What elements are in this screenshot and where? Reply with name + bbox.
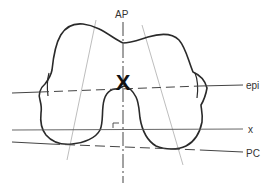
x-line <box>12 129 243 130</box>
epi-line-left <box>12 92 40 93</box>
ap-label: AP <box>115 9 129 20</box>
right-angle-mark <box>113 123 119 128</box>
femur-axes-diagram: AP epi x PC X <box>0 0 275 193</box>
right-epicondyle-notch <box>195 73 198 98</box>
pc-line-right <box>200 150 243 152</box>
right-condyle-axis-line <box>142 25 183 165</box>
center-x-marker: X <box>116 70 131 95</box>
x-label: x <box>248 124 253 135</box>
pc-line-left <box>12 142 50 144</box>
left-epicondyle-notch <box>47 73 49 96</box>
epi-label: epi <box>246 80 259 91</box>
pc-label: PC <box>246 148 260 159</box>
